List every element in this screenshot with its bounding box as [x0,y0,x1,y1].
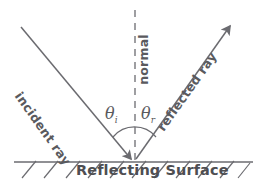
reflecting-surface-label: Reflecting Surface [76,162,229,178]
theta-r-symbol: θ [141,104,151,123]
angle-of-reflection-label: θr [141,104,155,125]
theta-i-subscript: i [115,115,118,125]
incident-ray-line [21,27,131,159]
theta-r-subscript: r [151,115,155,125]
reflection-diagram-canvas: incident ray reflected ray normal Reflec… [0,0,263,196]
normal-label: normal [136,34,151,85]
angle-of-incidence-label: θi [105,104,118,125]
theta-i-symbol: θ [105,104,115,123]
